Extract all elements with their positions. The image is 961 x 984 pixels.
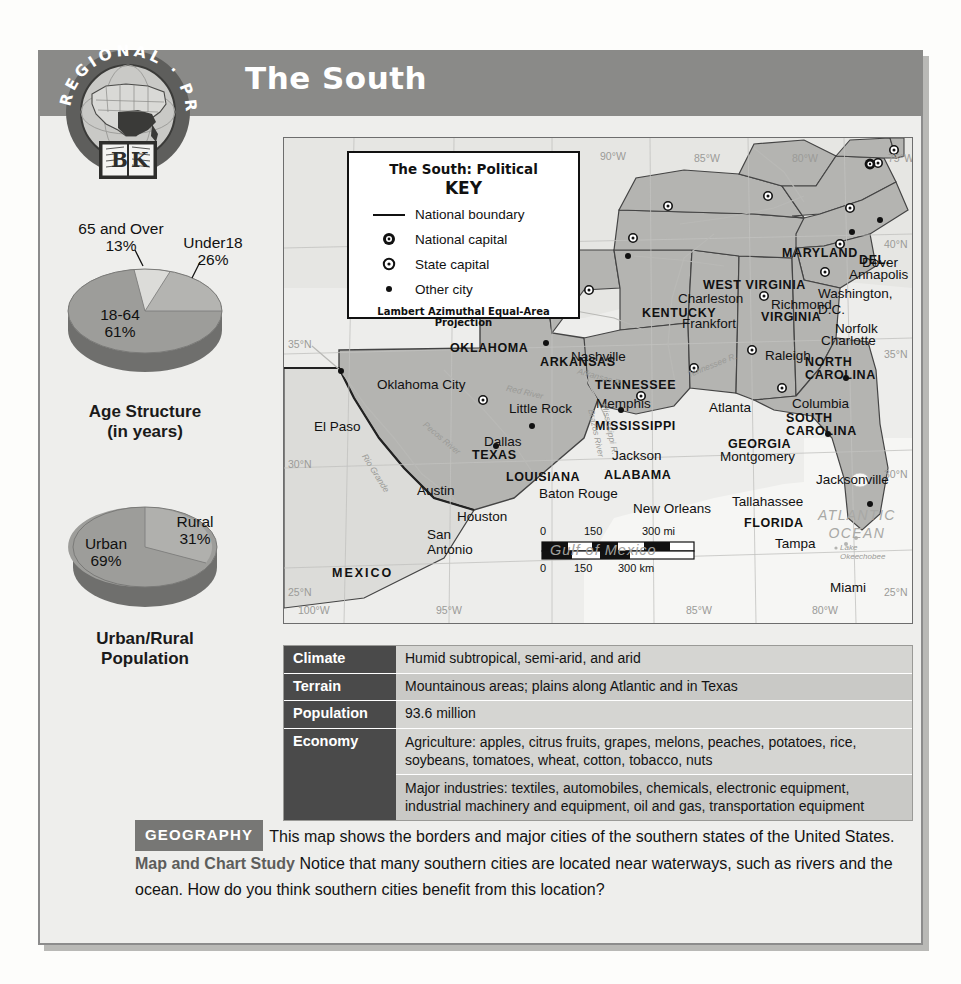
table-row-population: Population 93.6 million	[284, 701, 912, 729]
state-label-florida: FLORIDA	[744, 516, 804, 530]
city-label-charlotte: Charlotte	[821, 333, 876, 348]
map-key-box: The South: Political KEY National bounda…	[347, 151, 580, 319]
state-label-mexico: MEXICO	[332, 566, 393, 580]
national-boundary-icon	[363, 210, 415, 220]
caption-text-1: This map shows the borders and major cit…	[269, 828, 894, 845]
city-label-dallas: Dallas	[484, 434, 522, 449]
table-header-population: Population	[284, 701, 396, 728]
city-label-little-rock: Little Rock	[509, 401, 572, 416]
state-label-south-carolina: SOUTHCAROLINA	[786, 412, 857, 438]
key-title: The South: Political	[349, 161, 578, 177]
state-capital-icon	[363, 256, 415, 272]
national-capital-icon	[363, 231, 415, 247]
state-label-louisiana: LOUISIANA	[506, 470, 580, 484]
lon-label-75w: 75°W	[888, 152, 913, 164]
city-label-miami: Miami	[830, 580, 866, 595]
urban-rural-label-rural: Rural 31%	[160, 513, 230, 547]
urban-rural-chart-caption: Urban/Rural Population	[20, 629, 270, 669]
table-value-climate: Humid subtropical, semi-arid, and arid	[396, 646, 912, 673]
table-value-economy-agriculture: Agriculture: apples, citrus fruits, grap…	[396, 729, 912, 775]
key-item-state-capital: State capital	[349, 256, 578, 272]
table-value-terrain: Mountainous areas; plains along Atlantic…	[396, 674, 912, 701]
key-item-other-city: Other city	[349, 281, 578, 297]
scale-mi-300: 300 mi	[642, 525, 675, 537]
table-value-population: 93.6 million	[396, 701, 912, 728]
table-header-terrain: Terrain	[284, 674, 396, 701]
key-item-national-boundary: National boundary	[349, 207, 578, 222]
state-label-oklahoma: OKLAHOMA	[450, 341, 528, 355]
svg-text:K: K	[131, 148, 149, 172]
key-label-national-capital: National capital	[415, 232, 507, 247]
table-value-economy-industries: Major industries: textiles, automobiles,…	[396, 775, 912, 820]
scale-km-0: 0	[540, 562, 546, 574]
page-title: The South	[245, 60, 427, 96]
city-label-frankfort: Frankfort	[682, 316, 736, 331]
map-and-chart-study-label: Map and Chart Study	[135, 855, 295, 872]
scale-mi-0: 0	[540, 525, 546, 537]
city-label-columbia: Columbia	[792, 396, 849, 411]
water-label-lake-okeechobee: LakeOkeechobee	[840, 543, 885, 561]
table-row-economy: Economy Agriculture: apples, citrus frui…	[284, 729, 912, 820]
lat-label-35n-right: 35°N	[884, 348, 907, 360]
age-label-under-18: Under18 26%	[168, 234, 258, 268]
city-label-montgomery: Montgomery	[720, 449, 795, 464]
key-item-national-capital: National capital	[349, 231, 578, 247]
city-label-oklahoma-city: Oklahoma City	[377, 377, 466, 392]
other-city-icon	[363, 281, 415, 297]
city-label-austin: Austin	[417, 483, 455, 498]
water-label-gulf-of-mexico: Gulf of Mexico	[550, 542, 657, 558]
map-projection-note: Lambert Azimuthal Equal-Area Projection	[349, 306, 578, 328]
city-label-atlanta: Atlanta	[709, 400, 751, 415]
age-chart-caption: Age Structure (in years)	[20, 402, 270, 442]
state-label-texas: TEXAS	[472, 448, 517, 462]
state-label-west-virginia: WEST VIRGINIA	[703, 278, 806, 292]
age-label-18-64: 18-64 61%	[82, 306, 158, 340]
water-label-atlantic-ocean: ATLANTICOCEAN	[818, 506, 896, 542]
city-label-tampa: Tampa	[775, 536, 816, 551]
lon-label-100w: 100°W	[298, 604, 330, 616]
lon-label-85w: 85°W	[694, 152, 720, 164]
lat-label-25n-right: 25°N	[884, 586, 907, 598]
geography-badge: GEOGRAPHY	[135, 820, 263, 851]
state-label-alabama: ALABAMA	[604, 468, 671, 482]
age-label-65-over: 65 and Over 13%	[56, 220, 186, 254]
city-label-dover: Dover	[862, 255, 898, 270]
lat-label-40n-right: 40°N	[884, 238, 907, 250]
key-label-other-city: Other city	[415, 282, 473, 297]
lat-label-25n-left: 25°N	[288, 586, 311, 598]
regional-profile-seal: REGIONAL · PROFILE B K	[48, 32, 208, 192]
state-label-maryland: MARYLAND	[782, 246, 858, 260]
age-pie-graphic: 65 and Over 13% Under18 26% 18-64 61%	[20, 228, 270, 398]
region-facts-table: Climate Humid subtropical, semi-arid, an…	[283, 645, 913, 821]
scale-km-300: 300 km	[618, 562, 654, 574]
urban-rural-chart: Rural 31% Urban 69% Urban/Rural Populati…	[20, 485, 270, 669]
lon-label-95w: 95°W	[436, 604, 462, 616]
urban-rural-label-urban: Urban 69%	[66, 535, 146, 569]
key-subtitle: KEY	[349, 178, 578, 198]
city-label-charleston: Charleston	[678, 291, 743, 306]
table-header-climate: Climate	[284, 646, 396, 673]
washington-dc-marker	[865, 159, 876, 170]
south-political-map: The South: Political KEY National bounda…	[283, 137, 913, 624]
city-label-washington-dc: Washington,D.C.	[818, 286, 893, 318]
table-economy-cells: Agriculture: apples, citrus fruits, grap…	[396, 729, 912, 820]
table-row-terrain: Terrain Mountainous areas; plains along …	[284, 674, 912, 702]
key-label-national-boundary: National boundary	[415, 207, 525, 222]
city-label-new-orleans: New Orleans	[633, 501, 711, 516]
lon-label-90w: 90°W	[600, 150, 626, 162]
state-label-north-carolina: NORTHCAROLINA	[805, 356, 876, 382]
lat-label-35n-left: 35°N	[288, 338, 311, 350]
city-label-jacksonville: Jacksonville	[816, 472, 889, 487]
age-structure-chart: 65 and Over 13% Under18 26% 18-64 61% Ag…	[20, 228, 270, 442]
lon-label-85w-bottom: 85°W	[686, 604, 712, 616]
city-label-tallahassee: Tallahassee	[732, 494, 803, 509]
lon-label-80w: 80°W	[792, 152, 818, 164]
table-header-economy: Economy	[284, 729, 396, 820]
city-label-el-paso: El Paso	[314, 419, 361, 434]
geography-caption: GEOGRAPHYThis map shows the borders and …	[135, 820, 895, 903]
scale-mi-150: 150	[584, 525, 602, 537]
key-label-state-capital: State capital	[415, 257, 489, 272]
state-label-virginia: VIRGINIA	[761, 310, 821, 324]
table-row-climate: Climate Humid subtropical, semi-arid, an…	[284, 646, 912, 674]
city-label-san-antonio: SanAntonio	[427, 527, 473, 557]
